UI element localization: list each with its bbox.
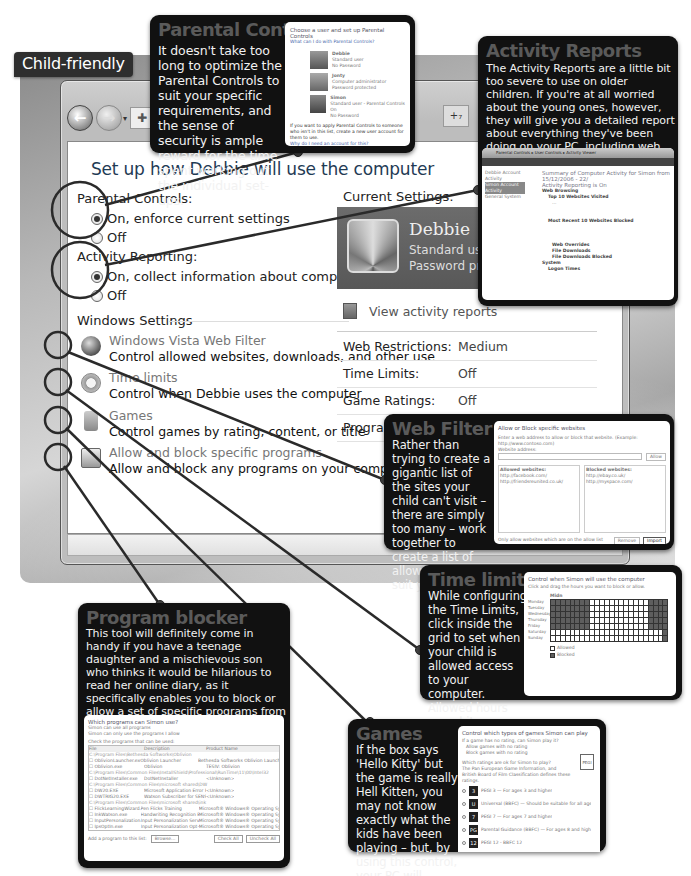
check-all-button[interactable]: Check All [214, 835, 243, 843]
current-settings-label: Current Settings: [343, 189, 454, 204]
import-button[interactable]: Import [643, 537, 666, 544]
only-allow-checkbox[interactable]: Only allow websites which are on the all… [498, 537, 603, 544]
screenshot-activity-viewer: Parental Controls ▸ User Controls ▸ Acti… [482, 148, 674, 300]
rating-badge-icon: U [469, 799, 478, 809]
user-avatar [310, 95, 326, 113]
screenshot-web-filter: Allow or Block specific websites Enter a… [494, 421, 670, 544]
history-dropdown-icon[interactable]: ▾ [123, 114, 127, 123]
radio-unselected[interactable] [91, 232, 103, 244]
time-cell[interactable] [663, 636, 668, 642]
day-label: Sunday [528, 635, 548, 641]
radio-selected[interactable] [91, 213, 103, 225]
program-rows: C:\Program Files\Bethesda Softworks\Obli… [89, 752, 279, 830]
globe-icon [81, 336, 101, 356]
game-ratings-row: Game Ratings: Off [343, 393, 593, 408]
rating-radio[interactable] [462, 802, 466, 806]
rating-row[interactable]: UUniversal (BBFC) — Should be suitable f… [462, 799, 596, 809]
callout-program-blocker: Program blocker This tool will definitel… [78, 603, 290, 868]
legend-allowed-swatch [550, 646, 555, 651]
program-list[interactable]: File Description Product Name C:\Program… [88, 745, 280, 831]
games-link[interactable]: Games Control games by rating, content, … [81, 408, 365, 439]
callout-title: Program blocker [86, 607, 247, 628]
parental-controls-on-radio[interactable]: On, enforce current settings [91, 211, 290, 226]
callout-activity-reports: Activity Reports The Activity Reports ar… [478, 36, 678, 306]
uncheck-all-button[interactable]: Uncheck All [246, 835, 280, 843]
back-button[interactable]: ← [67, 105, 93, 131]
rating-radio[interactable] [462, 815, 466, 819]
rating-row[interactable]: 3PEGI 3 — For ages 3 and higher [462, 786, 596, 796]
rating-row[interactable]: 7PEGI 7 — For ages 7 and higher [462, 812, 596, 822]
allowed-list[interactable]: Allowed websites: http://facebook.com/ h… [498, 465, 580, 533]
callout-title: Time limits [428, 569, 535, 590]
rating-row[interactable]: PGParental Guidance (BBFC) — For ages 8 … [462, 825, 596, 835]
time-limits-row: Time Limits: Off [343, 366, 593, 381]
rating-row[interactable]: 12PEGI 12 - BBFC 12 [462, 838, 596, 848]
user-name: Debbie [409, 219, 470, 239]
day-labels: MondayTuesdayWednesdayThursdayFridaySatu… [528, 599, 548, 642]
callout-games: Games If the box says 'Hello Kitty' but … [348, 719, 606, 852]
clock-icon [81, 373, 101, 393]
remove-button[interactable]: Remove [614, 537, 640, 544]
report-icon [343, 303, 357, 319]
rating-radio[interactable] [462, 789, 466, 793]
callout-web-filter: Web Filter Rather than trying to create … [384, 414, 674, 550]
allow-button[interactable]: Allow [646, 453, 666, 461]
trophy-icon [84, 411, 98, 431]
blocked-list[interactable]: Blocked websites: http://ebay.co.uk/ htt… [584, 465, 666, 533]
rating-radio[interactable] [462, 828, 466, 832]
activity-reporting-off-radio[interactable]: Off [91, 288, 126, 303]
user-avatar [347, 219, 399, 273]
callout-title: Activity Reports [486, 40, 641, 61]
ratings-list[interactable]: 3PEGI 3 — For ages 3 and higherUUniversa… [462, 786, 596, 848]
programs-link[interactable]: Allow and block specific programs Allow … [81, 445, 414, 476]
user-tile-debbie[interactable]: DebbieStandard userNo Password [310, 51, 405, 69]
callout-time-limits: Time limits While configuring the Time L… [420, 565, 682, 700]
browse-button[interactable]: Browse... [151, 835, 180, 843]
toolbar [482, 158, 674, 166]
time-limits-link[interactable]: Time limits Control when Debbie uses the… [81, 370, 362, 401]
callout-title: Games [356, 723, 422, 744]
radio-selected[interactable] [91, 271, 103, 283]
radio-unselected[interactable] [91, 290, 103, 302]
view-activity-reports-link[interactable]: View activity reports [343, 303, 497, 319]
block-unrated-radio[interactable]: Block games with no rating [466, 750, 596, 756]
callout-body: It doesn't take too long to optimize the… [158, 43, 286, 208]
section-divider [169, 321, 349, 322]
website-address-input[interactable] [498, 453, 642, 460]
report-summary: Summary of Computer Activity for Simon f… [542, 170, 672, 272]
pegi-logo: PEGI [580, 754, 594, 770]
user-tile-jonty[interactable]: JontyComputer administratorPassword prot… [310, 73, 405, 91]
category-badge: Child-friendly [14, 52, 133, 77]
rating-badge-icon: 12 [469, 838, 478, 848]
web-restrictions-row: Web Restrictions: Medium [343, 339, 593, 354]
screenshot-games: Control which types of games Simon can p… [458, 726, 600, 852]
rating-badge-icon: 3 [469, 786, 478, 796]
program-row[interactable]: ☐ IpsOptIn.exeInput Personalization Opt-… [89, 824, 279, 830]
option-allowed-programs[interactable]: Simon can only use the programs I allow [88, 731, 280, 737]
screenshot-program-blocker: Which programs can Simon use? Simon can … [84, 715, 284, 861]
program-block-icon [81, 448, 101, 468]
rating-badge-icon: 7 [469, 812, 478, 822]
rating-badge-icon: PG [469, 825, 478, 835]
user-tile-simon[interactable]: SimonStandard user - Parental Controls O… [310, 95, 405, 119]
parental-controls-off-radio[interactable]: Off [91, 230, 126, 245]
refresh-button[interactable]: +₇ [443, 105, 469, 127]
screenshot-time-limits: Control when Simon will use the computer… [524, 572, 676, 696]
user-avatar [310, 73, 328, 91]
callout-body: If the box says 'Hello Kitty' but the ga… [356, 743, 461, 876]
rating-radio[interactable] [462, 841, 466, 845]
section-divider [337, 331, 597, 332]
forward-button[interactable]: → [96, 105, 122, 131]
breadcrumb[interactable]: Parental Controls ▸ User Controls ▸ Acti… [482, 148, 674, 158]
report-tree: Debbie Account Activity Simon Account Ac… [485, 170, 525, 200]
callout-parental-controls: Parental Controls It doesn't take too lo… [150, 15, 415, 153]
screenshot-user-chooser: Choose a user and set up Parental Contro… [285, 22, 410, 146]
callout-title: Web Filter [392, 418, 492, 439]
row-divider [337, 360, 597, 361]
activity-reporting-label: Activity Reporting: [77, 249, 197, 264]
time-grid[interactable] [550, 599, 668, 642]
row-divider [337, 387, 597, 388]
user-avatar [310, 51, 328, 69]
legend-blocked-swatch [550, 653, 555, 658]
